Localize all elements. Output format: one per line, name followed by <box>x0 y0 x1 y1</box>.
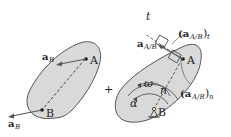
plus-operator: + <box>104 83 113 96</box>
label-vector-a-ab: a <box>137 38 144 49</box>
label-vector-ab-top-sub: B <box>48 56 54 64</box>
label-vector-ab-top: a <box>42 51 49 62</box>
kinematics-diagram: A B a B a B + t n A B ω α a A/B (a A/B ) <box>0 0 231 137</box>
label-point-b-left: B <box>46 107 54 120</box>
label-alpha: α <box>130 97 138 110</box>
label-t-axis: t <box>146 10 151 23</box>
label-vector-ab-bottom-sub: B <box>14 123 20 131</box>
label-vector-a-ab-t-sub: A/B <box>189 33 203 41</box>
label-point-a-right: A <box>186 54 196 67</box>
label-vector-a-ab-t: (a <box>178 28 190 39</box>
label-vector-a-ab-sub: A/B <box>143 43 157 51</box>
label-point-b-right: B <box>158 106 166 119</box>
left-rigid-body <box>8 42 101 119</box>
label-n-axis: n <box>160 84 167 97</box>
label-point-a-left: A <box>89 54 99 67</box>
label-vector-a-ab-n-sub: A/B <box>191 93 205 101</box>
label-vector-ab-bottom: a <box>8 118 15 129</box>
label-vector-a-ab-t-suffix: t <box>207 33 210 41</box>
label-vector-a-ab-n: (a <box>180 88 192 99</box>
label-omega: ω <box>144 77 153 90</box>
label-vector-a-ab-n-suffix: n <box>209 93 214 101</box>
